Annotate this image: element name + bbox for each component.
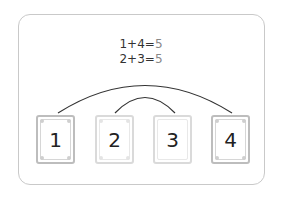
card-4: 4: [211, 115, 250, 164]
pairing-arcs: [0, 0, 282, 199]
corner-dot: [99, 119, 103, 123]
corner-dot: [126, 156, 130, 160]
corner-dot: [242, 156, 246, 160]
card-label: 2: [108, 128, 121, 152]
corner-dot: [99, 156, 103, 160]
corner-dot: [67, 119, 71, 123]
corner-dot: [40, 156, 44, 160]
corner-dot: [126, 119, 130, 123]
corner-dot: [215, 119, 219, 123]
card-label: 3: [166, 128, 179, 152]
arc-2-to-3: [115, 98, 175, 114]
card-2: 2: [95, 115, 134, 164]
card-label: 1: [49, 128, 62, 152]
corner-dot: [40, 119, 44, 123]
card-label: 4: [224, 128, 237, 152]
corner-dot: [67, 156, 71, 160]
card-1: 1: [36, 115, 75, 164]
corner-dot: [215, 156, 219, 160]
corner-dot: [242, 119, 246, 123]
card-3: 3: [153, 115, 192, 164]
arc-1-to-4: [58, 86, 232, 114]
